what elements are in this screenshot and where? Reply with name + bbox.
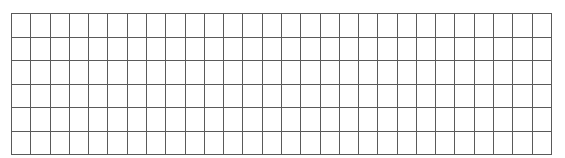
grid-cell — [513, 61, 532, 85]
grid-cell — [359, 37, 378, 61]
grid-cell — [166, 131, 185, 155]
grid-cell — [301, 14, 320, 38]
grid-cell — [12, 14, 31, 38]
grid-cell — [532, 84, 551, 108]
grid-cell — [69, 14, 88, 38]
grid-cell — [455, 61, 474, 85]
grid-cell — [243, 84, 262, 108]
grid-cell — [262, 37, 281, 61]
grid-body — [12, 14, 552, 155]
grid-cell — [185, 37, 204, 61]
grid-cell — [320, 108, 339, 132]
grid-cell — [108, 131, 127, 155]
grid-cell — [301, 108, 320, 132]
grid-cell — [12, 131, 31, 155]
grid-cell — [455, 131, 474, 155]
grid-cell — [224, 108, 243, 132]
grid-cell — [359, 14, 378, 38]
grid-cell — [146, 61, 165, 85]
grid-cell — [31, 108, 50, 132]
grid-cell — [204, 108, 223, 132]
grid-cell — [281, 37, 300, 61]
grid-cell — [513, 84, 532, 108]
grid-cell — [108, 108, 127, 132]
grid-cell — [89, 84, 108, 108]
grid-cell — [474, 14, 493, 38]
grid-cell — [455, 108, 474, 132]
grid-cell — [204, 61, 223, 85]
grid-cell — [12, 37, 31, 61]
grid-cell — [378, 14, 397, 38]
grid-cell — [224, 61, 243, 85]
grid-cell — [281, 61, 300, 85]
grid-cell — [146, 14, 165, 38]
grid-cell — [50, 14, 69, 38]
grid-row — [12, 14, 552, 38]
grid-cell — [262, 131, 281, 155]
grid-cell — [532, 14, 551, 38]
grid-cell — [494, 108, 513, 132]
grid-cell — [89, 108, 108, 132]
grid-cell — [31, 84, 50, 108]
grid-cell — [494, 37, 513, 61]
grid-cell — [146, 84, 165, 108]
grid-cell — [436, 84, 455, 108]
grid-cell — [416, 84, 435, 108]
grid-cell — [166, 108, 185, 132]
grid-cell — [50, 61, 69, 85]
grid-cell — [12, 84, 31, 108]
grid-cell — [281, 131, 300, 155]
grid-row — [12, 108, 552, 132]
grid-cell — [359, 61, 378, 85]
grid-cell — [301, 37, 320, 61]
grid-cell — [262, 14, 281, 38]
grid-cell — [513, 108, 532, 132]
grid-cell — [301, 131, 320, 155]
grid-cell — [455, 84, 474, 108]
grid-cell — [69, 108, 88, 132]
grid-row — [12, 84, 552, 108]
grid-cell — [532, 108, 551, 132]
grid-cell — [166, 61, 185, 85]
grid-cell — [224, 131, 243, 155]
grid-cell — [320, 61, 339, 85]
grid-row — [12, 61, 552, 85]
grid-cell — [532, 131, 551, 155]
grid-cell — [262, 84, 281, 108]
grid-cell — [69, 37, 88, 61]
grid-cell — [474, 61, 493, 85]
grid-cell — [532, 61, 551, 85]
grid-cell — [532, 37, 551, 61]
grid-cell — [243, 61, 262, 85]
grid-cell — [146, 108, 165, 132]
grid-cell — [378, 84, 397, 108]
grid-cell — [378, 108, 397, 132]
grid-cell — [12, 61, 31, 85]
grid-cell — [243, 14, 262, 38]
grid-cell — [474, 131, 493, 155]
grid-cell — [397, 14, 416, 38]
grid-cell — [359, 108, 378, 132]
grid-cell — [204, 131, 223, 155]
grid-cell — [69, 84, 88, 108]
grid-cell — [50, 108, 69, 132]
grid-row — [12, 37, 552, 61]
grid-cell — [31, 131, 50, 155]
grid-cell — [339, 61, 358, 85]
grid-cell — [436, 37, 455, 61]
grid-row — [12, 131, 552, 155]
grid-cell — [185, 131, 204, 155]
grid-cell — [339, 131, 358, 155]
grid-cell — [108, 61, 127, 85]
grid-cell — [185, 14, 204, 38]
grid-cell — [89, 131, 108, 155]
grid-cell — [513, 131, 532, 155]
grid-cell — [243, 37, 262, 61]
grid-cell — [397, 84, 416, 108]
grid-cell — [281, 14, 300, 38]
grid-cell — [436, 108, 455, 132]
grid-cell — [50, 131, 69, 155]
grid-cell — [320, 84, 339, 108]
grid-cell — [436, 131, 455, 155]
grid-cell — [31, 14, 50, 38]
